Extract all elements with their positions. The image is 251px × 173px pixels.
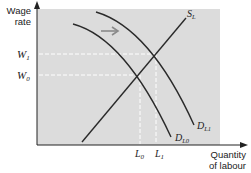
x-axis-label-line1: Quantity	[211, 149, 247, 160]
x-axis-arrow-icon	[240, 142, 248, 148]
l0-label: L0	[134, 148, 145, 161]
w0-label: W0	[17, 69, 30, 83]
x-axis-label-line2: of labour	[209, 160, 246, 171]
y-axis-label-line2: rate	[15, 16, 31, 27]
y-axis-arrow-icon	[34, 1, 40, 9]
y-axis-label-line1: Wage	[7, 5, 31, 16]
w1-label: W1	[17, 48, 30, 62]
l1-label: L1	[154, 148, 164, 161]
labour-market-diagram: Wage rate W1 W0 L0 L1 SL DL0 DL1 Quantit…	[0, 0, 251, 173]
